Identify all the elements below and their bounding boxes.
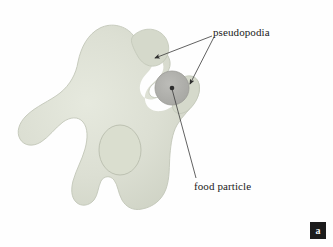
panel-label-badge: a bbox=[310, 222, 326, 239]
leader-line-pseudopod-right bbox=[190, 37, 214, 84]
label-pseudopodia: pseudopodia bbox=[213, 26, 270, 38]
cell-membrane-outline bbox=[18, 25, 199, 209]
nucleus-shape bbox=[99, 125, 141, 175]
amoeba-figure: pseudopodia food particle a bbox=[0, 0, 333, 247]
food-particle-callout-dot bbox=[170, 86, 175, 91]
label-food-particle: food particle bbox=[194, 180, 251, 192]
amoeba-diagram bbox=[0, 0, 333, 247]
amoeba-cell-body bbox=[18, 25, 199, 209]
